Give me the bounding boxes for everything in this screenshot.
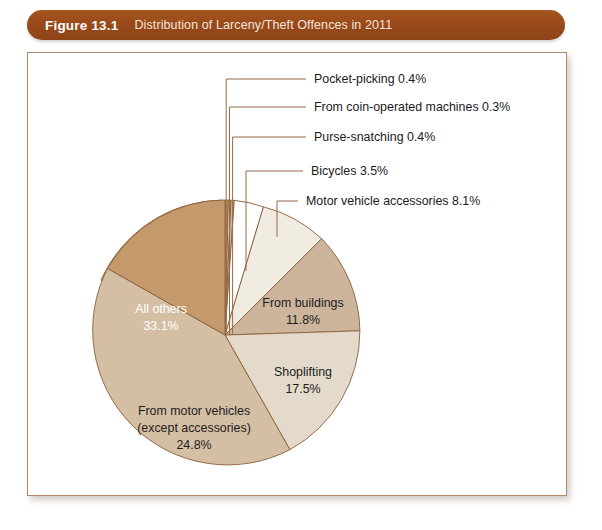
callout-labels: Pocket-picking 0.4% From coin-operated m… bbox=[306, 72, 510, 208]
slice-label-from-buildings-name: From buildings bbox=[262, 296, 343, 310]
figure-title: Distribution of Larceny/Theft Offences i… bbox=[134, 18, 392, 32]
slice-label-from-motor-vehicles-qualifier: (except accessories) bbox=[137, 421, 251, 435]
slice-label-from-motor-vehicles-name: From motor vehicles bbox=[138, 404, 250, 418]
slice-label-from-motor-vehicles-value: 24.8% bbox=[176, 438, 211, 452]
figure-header-bar: Figure 13.1 Distribution of Larceny/Thef… bbox=[27, 10, 565, 40]
pie-chart: Pocket-picking 0.4% From coin-operated m… bbox=[28, 53, 567, 496]
callout-label-bicycles: Bicycles 3.5% bbox=[311, 164, 388, 178]
callout-label-purse-snatching: Purse-snatching 0.4% bbox=[314, 130, 435, 144]
chart-panel: Pocket-picking 0.4% From coin-operated m… bbox=[27, 52, 567, 496]
figure-number: Figure 13.1 bbox=[45, 18, 118, 33]
callout-label-coin-operated-machines: From coin-operated machines 0.3% bbox=[314, 100, 510, 114]
slice-label-all-others-name: All others bbox=[135, 302, 187, 316]
callout-label-pocket-picking: Pocket-picking 0.4% bbox=[314, 72, 426, 86]
callout-label-motor-vehicle-accessories: Motor vehicle accessories 8.1% bbox=[306, 194, 480, 208]
slice-label-all-others-value: 33.1% bbox=[143, 319, 178, 333]
slice-label-from-buildings-value: 11.8% bbox=[286, 313, 320, 327]
slice-label-shoplifting-value: 17.5% bbox=[285, 382, 320, 396]
slice-label-shoplifting-name: Shoplifting bbox=[274, 365, 332, 379]
